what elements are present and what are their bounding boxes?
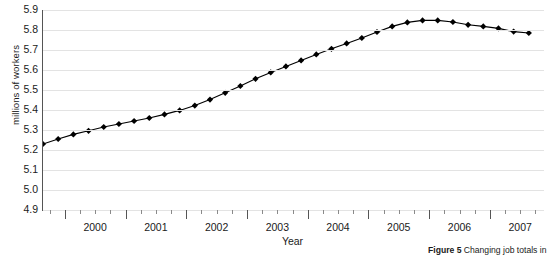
y-axis-tick-label: 5.4	[4, 104, 38, 114]
x-axis-major-tick	[65, 210, 66, 219]
x-axis-minor-tick	[95, 210, 96, 214]
x-axis-minor-tick	[217, 210, 218, 214]
x-axis-major-tick	[429, 210, 430, 219]
data-point-marker	[283, 63, 289, 69]
data-point-marker	[435, 17, 441, 23]
data-point-marker	[404, 19, 410, 25]
data-point-marker	[146, 115, 152, 121]
x-axis-minor-tick	[110, 210, 111, 214]
figure-caption: Figure 5 Changing job totals in	[428, 245, 549, 255]
data-point-marker	[192, 103, 198, 109]
x-axis-minor-tick	[232, 210, 233, 214]
x-axis-tick-label: 2002	[187, 221, 247, 233]
x-axis-minor-tick	[293, 210, 294, 214]
gridline	[43, 50, 544, 51]
x-axis-minor-tick	[384, 210, 385, 214]
x-axis-tick-label: 2003	[247, 221, 307, 233]
x-axis-minor-tick	[520, 210, 521, 214]
data-point-marker	[480, 23, 486, 29]
x-axis-minor-tick	[414, 210, 415, 214]
x-axis-tick-label: 2006	[430, 221, 490, 233]
x-axis-minor-tick	[156, 210, 157, 214]
gridline	[43, 190, 544, 191]
gridline	[43, 90, 544, 91]
x-axis-minor-tick	[505, 210, 506, 214]
data-point-marker	[344, 40, 350, 46]
data-point-marker	[298, 57, 304, 63]
x-axis-minor-tick	[535, 210, 536, 214]
gridline	[43, 70, 544, 71]
y-axis-tick-label: 5.7	[4, 44, 38, 54]
data-point-marker	[419, 17, 425, 23]
data-point-marker	[237, 83, 243, 89]
y-axis-tick-label: 5.5	[4, 84, 38, 94]
data-point-marker	[313, 51, 319, 57]
y-axis-tick-label: 5.1	[4, 164, 38, 174]
gridline	[43, 150, 544, 151]
gridline	[43, 170, 544, 171]
y-axis-tick-label: 5.9	[4, 4, 38, 14]
x-axis-major-tick	[247, 210, 248, 219]
x-axis-tick-label: 2007	[490, 221, 549, 233]
y-axis-tick-label: 5.0	[4, 184, 38, 194]
data-point-marker	[465, 22, 471, 28]
x-axis-minor-tick	[460, 210, 461, 214]
data-point-marker	[161, 111, 167, 117]
gridline	[43, 110, 544, 111]
y-axis-tick-label: 5.2	[4, 144, 38, 154]
data-point-marker	[43, 141, 46, 147]
x-axis-minor-tick	[475, 210, 476, 214]
x-axis-minor-tick	[338, 210, 339, 214]
x-axis-major-tick	[186, 210, 187, 219]
plot-area	[42, 10, 544, 211]
data-point-marker	[116, 121, 122, 127]
chart-figure: millions of workers 5.95.85.75.65.55.45.…	[0, 0, 549, 256]
x-axis-tick-label: 2001	[126, 221, 186, 233]
x-axis-minor-tick	[50, 210, 51, 214]
x-axis-tick-labels: 20002001200220032004200520062007	[0, 221, 549, 235]
figure-caption-text: Changing job totals in	[461, 245, 546, 255]
data-point-marker	[450, 19, 456, 25]
x-axis-minor-tick	[353, 210, 354, 214]
x-axis-minor-tick	[171, 210, 172, 214]
x-axis-tick-label: 2004	[308, 221, 368, 233]
x-axis-tick-label: 2000	[65, 221, 125, 233]
y-axis-tick-label: 5.8	[4, 24, 38, 34]
data-point-marker	[70, 131, 76, 137]
y-axis-tick-labels: 5.95.85.75.65.55.45.35.25.15.04.9	[0, 0, 38, 220]
x-axis-minor-tick	[399, 210, 400, 214]
gridline	[43, 30, 544, 31]
x-axis-minor-tick	[201, 210, 202, 214]
x-axis-major-tick	[308, 210, 309, 219]
x-axis-major-tick	[126, 210, 127, 219]
gridline	[43, 10, 544, 11]
series-line	[43, 20, 529, 144]
y-axis-tick-label: 5.6	[4, 64, 38, 74]
y-axis-tick-label: 4.9	[4, 204, 38, 214]
x-axis-minor-tick	[323, 210, 324, 214]
y-axis-tick-label: 5.3	[4, 124, 38, 134]
x-axis-minor-tick	[141, 210, 142, 214]
data-point-marker	[389, 23, 395, 29]
x-axis-minor-tick	[277, 210, 278, 214]
x-axis-minor-tick	[262, 210, 263, 214]
gridline	[43, 130, 544, 131]
x-axis-tick-label: 2005	[369, 221, 429, 233]
data-point-marker	[131, 118, 137, 124]
data-point-marker	[252, 76, 258, 82]
x-axis-major-tick	[490, 210, 491, 219]
data-point-marker	[359, 35, 365, 41]
x-axis-minor-tick	[444, 210, 445, 214]
data-point-marker	[55, 136, 61, 142]
figure-caption-label: Figure 5	[428, 245, 461, 255]
x-axis-minor-tick	[80, 210, 81, 214]
data-point-marker	[207, 97, 213, 103]
x-axis-major-tick	[368, 210, 369, 219]
